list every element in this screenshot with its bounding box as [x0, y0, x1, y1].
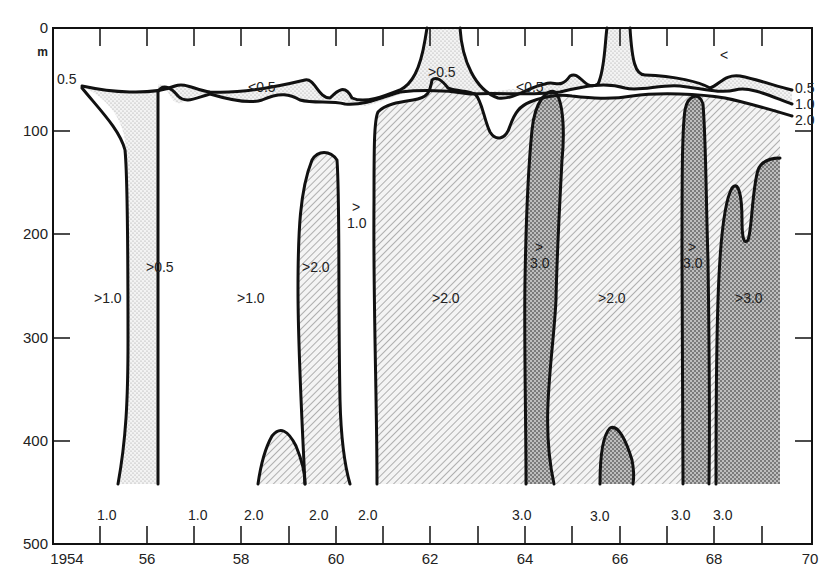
region-lt-0-5-b: <0.5: [516, 79, 544, 95]
x-tick-labels: 1954 56 58 60 62 64 66 68 70: [50, 550, 818, 567]
bottom-label-3-0-a: 3.0: [512, 507, 532, 523]
y-tick-400: 400: [23, 432, 48, 449]
bottom-label-2-0-c: 2.0: [358, 507, 378, 523]
bottom-label-3-0-b: 3.0: [590, 508, 610, 524]
y-tick-0: 0: [40, 19, 48, 36]
left-label-0-5: 0.5: [57, 71, 77, 87]
region-gt-0-5-top: >0.5: [428, 64, 456, 80]
x-tick-58: 58: [233, 550, 250, 567]
y-tick-500: 500: [23, 535, 48, 552]
region-gt-3-0-b: 3.0: [683, 255, 703, 271]
y-unit: m: [37, 45, 48, 59]
region-gt-3-0-a: 3.0: [530, 255, 550, 271]
x-tick-70: 70: [802, 550, 819, 567]
region-lt-0-5-a: <0.5: [248, 79, 276, 95]
region-gt-2-0-b: >2.0: [432, 290, 460, 306]
hatch-bump-58: [258, 431, 305, 484]
depth-time-contour-chart: 0 m 100 200 300 400 500 1954 56 58 60 62…: [0, 0, 828, 578]
y-tick-300: 300: [23, 329, 48, 346]
x-tick-64: 64: [517, 550, 534, 567]
region-1-0: 1.0: [347, 215, 367, 231]
x-tick-68: 68: [706, 550, 723, 567]
region-gt-1-0-b: >1.0: [237, 290, 265, 306]
x-tick-66: 66: [612, 550, 629, 567]
region-gt-symbol: >: [352, 199, 360, 215]
right-label-2-0: 2.0: [795, 112, 815, 128]
x-tick-62: 62: [422, 550, 439, 567]
bottom-label-2-0-b: 2.0: [309, 507, 329, 523]
x-tick-56: 56: [139, 550, 156, 567]
bottom-label-1-0-b: 1.0: [188, 507, 208, 523]
region-lt: <: [720, 47, 728, 63]
y-tick-100: 100: [23, 122, 48, 139]
region-gt-2-0-a: >2.0: [302, 259, 330, 275]
region-gt-0-5-col: >0.5: [146, 259, 174, 275]
y-tick-200: 200: [23, 225, 48, 242]
x-tick-60: 60: [328, 550, 345, 567]
bottom-label-2-0-a: 2.0: [244, 507, 264, 523]
contour-1-0-surface: [82, 88, 128, 484]
right-label-1-0: 1.0: [795, 96, 815, 112]
x-tick-1954: 1954: [50, 550, 83, 567]
region-gt-3-0-c: >3.0: [735, 290, 763, 306]
bottom-label-3-0-c: 3.0: [671, 507, 691, 523]
region-gt-1-0-a: >1.0: [94, 290, 122, 306]
bottom-label-3-0-d: 3.0: [713, 507, 733, 523]
region-gt-3-0-a-symbol: >: [535, 239, 543, 255]
right-label-0-5: 0.5: [795, 80, 815, 96]
region-gt-3-0-b-symbol: >: [688, 239, 696, 255]
y-tick-labels: 0 m 100 200 300 400 500: [23, 19, 48, 552]
bottom-label-1-0-a: 1.0: [97, 507, 117, 523]
region-gt-2-0-c: >2.0: [598, 290, 626, 306]
